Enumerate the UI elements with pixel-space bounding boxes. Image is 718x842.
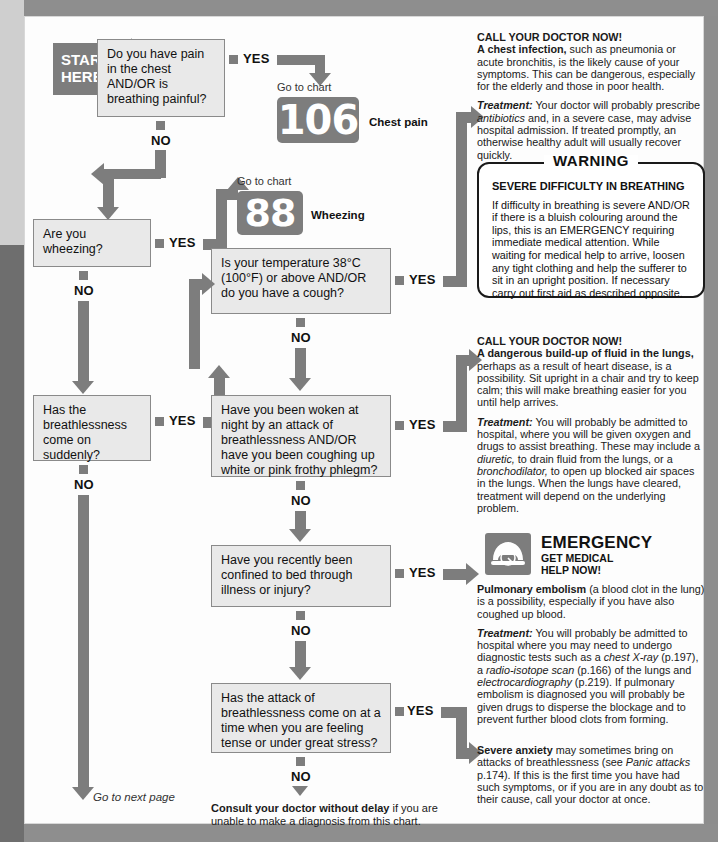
no-stub-q6: [296, 611, 305, 620]
advice-anxiety-lead-bold: Severe anxiety: [477, 744, 553, 756]
yes-stub-q4: [155, 417, 164, 426]
no-connector-q4-v: [78, 495, 89, 789]
advice-fluid-lungs-treatment-label: Treatment:: [477, 416, 533, 428]
advice-anxiety-lead-italic: Panic attacks: [626, 756, 690, 768]
advice-fluid-lungs-treatment-italic-1: diuretic,: [477, 453, 515, 465]
chart-tile-106[interactable]: 106: [277, 97, 359, 143]
no-arrowhead-q2: [72, 381, 94, 394]
advice-fluid-lungs-treatment-italic-2: bronchodilator,: [477, 465, 548, 477]
no-stub-q3: [296, 318, 305, 327]
question-box-woken-night[interactable]: Have you been woken at night by an attac…: [211, 395, 391, 477]
yes-stub-q2: [155, 239, 164, 248]
yes-connector-q1-v: [315, 55, 325, 75]
yes-label-q5: YES: [409, 417, 436, 432]
question-text-confined-bed: Have you recently been confined to bed t…: [221, 553, 352, 597]
goto-next-page-label: Go to next page: [93, 791, 175, 803]
advice-fluid-lungs-lead-bold: A dangerous build-up of fluid in the lun…: [477, 347, 694, 359]
yes-stub-q3: [395, 276, 404, 285]
yes-stub-q1: [229, 55, 238, 64]
q3-inbound-h: [189, 279, 203, 290]
yes-stub-q6: [395, 569, 404, 578]
yes-label-q6: YES: [409, 565, 436, 580]
advice-fluid-lungs-treatment-2: to drain fluid from the lungs, or a: [515, 453, 673, 465]
advice-chest-infection-treatment-label: Treatment:: [477, 99, 533, 111]
advice-embolism-treatment-italic-3: electrocardiography: [477, 676, 572, 688]
no-label-q5: NO: [291, 493, 311, 508]
goto-chart-label-106: Go to chart: [277, 81, 331, 93]
emergency-title: EMERGENCY: [541, 533, 652, 553]
yes-connector-q3-h2: [456, 112, 472, 123]
advice-embolism-lead-bold: Pulmonary embolism: [477, 583, 586, 595]
question-text-sudden: Has the breathlessness come on suddenly?: [43, 403, 127, 462]
no-connector-q1-down: [103, 169, 114, 209]
question-text-wheezing: Are you wheezing?: [43, 227, 103, 256]
yes-label-q2: YES: [169, 235, 196, 250]
chart-name-106: Chest pain: [369, 116, 428, 128]
no-arrowhead-q5: [289, 529, 311, 542]
chart-tile-88[interactable]: 88: [237, 191, 303, 235]
question-text-stress: Has the attack of breathlessness come on…: [221, 691, 381, 750]
yes-arrowhead-q4: [208, 365, 230, 378]
no-stub-q7: [296, 757, 305, 766]
consult-doctor-note: Consult your doctor without delay if you…: [211, 802, 446, 828]
printed-sheet: START HERE Do you have pain in the chest…: [24, 16, 704, 824]
no-label-q6: NO: [291, 623, 311, 638]
no-connector-q3-v: [295, 348, 306, 380]
advice-fluid-lungs: CALL YOUR DOCTOR NOW! A dangerous build-…: [477, 335, 705, 514]
advice-call-doctor-2: CALL YOUR DOCTOR NOW!: [477, 335, 622, 347]
advice-embolism-treatment-label: Treatment:: [477, 627, 533, 639]
telephone-icon: [485, 533, 531, 575]
yes-label-q3: YES: [409, 272, 436, 287]
no-label-q2: NO: [74, 283, 94, 298]
q3-inbound-arrowhead: [202, 273, 215, 295]
warning-subtitle: SEVERE DIFFICULTY IN BREATHING: [492, 180, 690, 193]
chart-page: START HERE Do you have pain in the chest…: [0, 0, 718, 842]
question-box-sudden[interactable]: Has the breathlessness come on suddenly?: [33, 395, 151, 461]
question-box-chest-pain[interactable]: Do you have pain in the chest AND/OR is …: [97, 39, 225, 117]
no-connector-q2-v: [78, 301, 89, 383]
yes-label-q7: YES: [407, 703, 434, 718]
advice-pulmonary-embolism: Pulmonary embolism (a blood clot in the …: [477, 583, 705, 725]
advice-embolism-treatment-italic-1: chest X-ray: [604, 651, 659, 663]
warning-title: WARNING: [544, 155, 638, 168]
question-box-confined-bed[interactable]: Have you recently been confined to bed t…: [211, 545, 391, 607]
yes-stub-q5: [395, 421, 404, 430]
no-label-q1: NO: [151, 133, 171, 148]
no-arrowhead-q7: [292, 786, 308, 796]
no-arrowhead-q4: [72, 787, 94, 800]
no-arrowhead-q3: [289, 378, 311, 391]
chart-name-88: Wheezing: [311, 209, 365, 221]
warning-box: WARNING SEVERE DIFFICULTY IN BREATHING I…: [477, 162, 705, 298]
question-box-stress[interactable]: Has the attack of breathlessness come on…: [211, 683, 391, 753]
advice-embolism-treatment-3: (p.166) of the lungs and: [574, 664, 691, 676]
no-label-q3: NO: [291, 330, 311, 345]
yes-arrowhead-q6: [466, 563, 479, 585]
question-text-woken-night: Have you been woken at night by an attac…: [221, 403, 377, 477]
q3-inbound-v: [189, 279, 200, 369]
advice-chest-infection-treatment-1: Your doctor will probably prescribe: [533, 99, 700, 111]
question-box-temperature[interactable]: Is your temperature 38°C (100°F) or abov…: [211, 248, 391, 314]
no-arrowhead-q6: [289, 667, 311, 680]
yes-connector-q7-h2: [456, 748, 470, 759]
no-stub-q5: [296, 481, 305, 490]
no-label-q7: NO: [291, 769, 311, 784]
yes-connector-q6-h: [443, 569, 467, 580]
no-stub-q1: [156, 121, 165, 130]
consult-doctor-bold: Consult your doctor without delay: [211, 802, 389, 814]
no-connector-q6-v: [295, 641, 306, 669]
question-box-wheezing[interactable]: Are you wheezing?: [33, 219, 151, 267]
no-label-q4: NO: [74, 477, 94, 492]
advice-chest-infection: CALL YOUR DOCTOR NOW! A chest infection,…: [477, 31, 705, 161]
goto-chart-label-88: Go to chart: [237, 175, 291, 187]
page-edge-highlight: [0, 0, 24, 245]
advice-embolism-treatment-italic-2: radio-isotope scan: [486, 664, 574, 676]
yes-connector-q3-v: [456, 112, 467, 282]
emergency-subtitle: GET MEDICAL HELP NOW!: [541, 553, 613, 576]
advice-severe-anxiety: Severe anxiety may sometimes bring on at…: [477, 744, 705, 805]
yes-label-q1: YES: [243, 51, 270, 66]
yes-label-q4: YES: [169, 413, 196, 428]
question-text-temperature: Is your temperature 38°C (100°F) or abov…: [221, 256, 366, 300]
yes-stub-q7: [395, 707, 404, 716]
no-stub-q2: [79, 271, 88, 280]
question-text-chest-pain: Do you have pain in the chest AND/OR is …: [107, 47, 206, 106]
